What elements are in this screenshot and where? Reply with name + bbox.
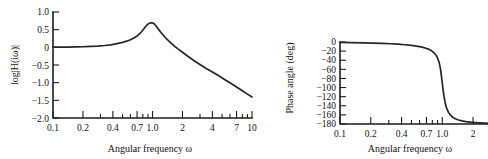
magnitude-x-tick-labels: 0.10.20.40.71.024710 [47,123,257,133]
x-tick-label: 0.7 [420,129,432,139]
y-tick-label: −0.5 [32,61,49,71]
x-tick-label: 1.0 [147,123,159,133]
x-tick-label: 4 [210,123,215,133]
x-tick-label: 7 [234,123,239,133]
x-tick-label: 2 [471,129,476,139]
x-tick-label: 0.7 [131,123,143,133]
data-curve [53,23,252,97]
magnitude-plot-panel: log|H(iω)| 1.0 0.5 0 −0.5 −1.0 −1.5 −2.0… [0,0,265,159]
phase-axes-and-curve [340,42,488,124]
phase-y-tick-labels: 0−20−40−60−80−100−120−140−160−180 [316,37,336,129]
y-tick-label: −1.0 [32,78,49,88]
x-tick-label: 0.2 [365,129,377,139]
data-curve [340,42,488,123]
phase-x-tick-labels: 0.10.20.40.71.02 [334,129,476,139]
x-tick-label: 0.1 [334,129,346,139]
x-tick-label: 10 [247,123,257,133]
x-tick-label: 0.1 [47,123,59,133]
y-tick-label: 0 [44,43,49,53]
magnitude-y-axis-title: log|H(iω)| [9,45,21,85]
y-tick-label: −1.5 [32,96,49,106]
phase-plot-svg: Phase angle (deg) 0−20−40−60−80−100−120−… [280,0,488,159]
y-tick-label: 0.5 [37,25,49,35]
magnitude-y-tick-labels: 1.0 0.5 0 −0.5 −1.0 −1.5 −2.0 [32,7,49,124]
y-tick-label: 1.0 [37,7,49,17]
x-tick-label: 0.4 [396,129,408,139]
magnitude-x-axis-title: Angular frequency ω [108,143,193,154]
magnitude-axes-and-curve [53,12,252,118]
x-tick-label: 2 [180,123,185,133]
x-tick-label: 0.4 [107,123,119,133]
phase-plot-panel: Phase angle (deg) 0−20−40−60−80−100−120−… [280,0,488,159]
x-tick-label: 1.0 [436,129,448,139]
phase-y-axis-title: Phase angle (deg) [284,42,296,113]
phase-x-axis-title: Angular frequency ω [368,143,453,154]
magnitude-plot-svg: log|H(iω)| 1.0 0.5 0 −0.5 −1.0 −1.5 −2.0… [0,0,265,159]
y-tick-label: −180 [316,119,336,129]
x-tick-label: 0.2 [77,123,89,133]
bode-plot-figure: log|H(iω)| 1.0 0.5 0 −0.5 −1.0 −1.5 −2.0… [0,0,488,159]
